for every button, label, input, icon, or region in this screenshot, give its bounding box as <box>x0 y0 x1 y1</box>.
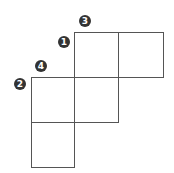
marker-badge-1: 1 <box>58 36 70 48</box>
net-square <box>119 33 164 78</box>
marker-badge-2: 2 <box>14 78 26 90</box>
marker-badge-4: 4 <box>35 60 47 72</box>
net-square <box>32 123 75 168</box>
net-square <box>75 78 119 123</box>
net-square <box>75 33 119 78</box>
marker-badge-3: 3 <box>79 15 91 27</box>
net-square <box>32 78 75 123</box>
